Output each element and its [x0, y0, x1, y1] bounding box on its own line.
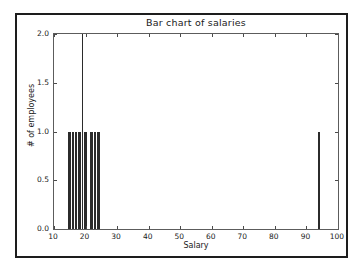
x-tick-label: 90: [292, 232, 318, 241]
y-axis-label: # of employees: [27, 56, 36, 176]
x-tick-label: 50: [166, 232, 192, 241]
x-tick: [275, 226, 276, 230]
y-tick: [53, 34, 57, 35]
x-tick: [338, 226, 339, 230]
y-tick-label: 2.0: [29, 29, 49, 38]
x-tick-label: 20: [72, 232, 98, 241]
y-tick-right: [335, 83, 339, 84]
y-tick-right: [335, 180, 339, 181]
y-tick: [53, 229, 57, 230]
y-tick: [53, 180, 57, 181]
y-tick: [53, 132, 57, 133]
chart-title: Bar chart of salaries: [53, 17, 339, 28]
x-tick: [306, 226, 307, 230]
x-tick-top: [275, 33, 276, 37]
y-tick: [53, 83, 57, 84]
figure-frame: Bar chart of salaries 102030405060708090…: [15, 13, 348, 258]
x-tick-top: [306, 33, 307, 37]
x-tick: [243, 226, 244, 230]
x-tick: [212, 226, 213, 230]
x-tick: [180, 226, 181, 230]
x-tick-top: [243, 33, 244, 37]
x-tick: [54, 226, 55, 230]
x-tick-label: 80: [261, 232, 287, 241]
y-tick-right: [335, 132, 339, 133]
bar: [82, 34, 83, 229]
x-tick-label: 30: [103, 232, 129, 241]
x-tick-top: [212, 33, 213, 37]
x-tick: [117, 226, 118, 230]
x-tick-top: [117, 33, 118, 37]
x-tick-top: [86, 33, 87, 37]
plot-area: [53, 33, 339, 230]
x-tick-top: [338, 33, 339, 37]
x-tick-top: [149, 33, 150, 37]
bar: [318, 132, 321, 230]
x-tick-top: [180, 33, 181, 37]
bar: [78, 132, 81, 230]
y-tick-label: 0.5: [29, 175, 49, 184]
figure-canvas: Bar chart of salaries 102030405060708090…: [17, 15, 346, 256]
x-axis-label: Salary: [53, 241, 339, 250]
x-tick: [86, 226, 87, 230]
bar: [84, 132, 87, 230]
x-tick-label: 40: [135, 232, 161, 241]
bar: [97, 132, 100, 230]
x-tick: [149, 226, 150, 230]
x-tick-label: 60: [198, 232, 224, 241]
x-tick-label: 70: [229, 232, 255, 241]
y-tick-right: [335, 229, 339, 230]
y-tick-label: 0.0: [29, 224, 49, 233]
x-tick-label: 10: [40, 232, 66, 241]
x-tick-label: 100: [324, 232, 350, 241]
y-tick-right: [335, 34, 339, 35]
